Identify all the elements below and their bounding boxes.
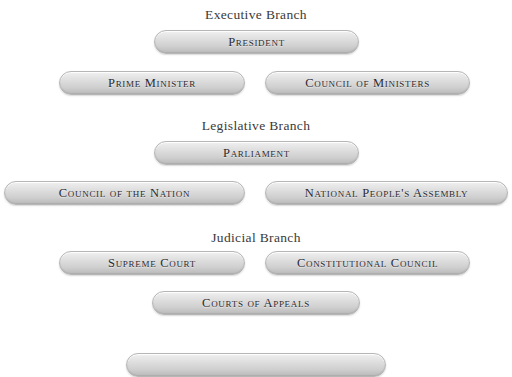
node-label: Council of the Nation xyxy=(59,187,190,200)
node-label: National People's Assembly xyxy=(305,187,469,200)
node-label: President xyxy=(228,36,285,49)
node-supreme-court[interactable]: Supreme Court xyxy=(59,251,245,275)
node-parliament[interactable]: Parliament xyxy=(154,141,359,165)
node-label: Constitutional Council xyxy=(297,257,438,270)
node-national-peoples-assembly[interactable]: National People's Assembly xyxy=(265,181,508,205)
node-constitutional-council[interactable]: Constitutional Council xyxy=(265,251,470,275)
node-label: Prime Minister xyxy=(108,77,196,90)
branch-heading-executive: Executive Branch xyxy=(0,7,512,23)
node-president[interactable]: President xyxy=(154,30,359,54)
node-council-of-ministers[interactable]: Council of Ministers xyxy=(265,71,470,95)
branch-heading-legislative: Legislative Branch xyxy=(0,118,512,134)
node-courts-of-appeals[interactable]: Courts of Appeals xyxy=(152,291,360,315)
branch-heading-judicial: Judicial Branch xyxy=(0,230,512,246)
node-prime-minister[interactable]: Prime Minister xyxy=(59,71,245,95)
node-label: Parliament xyxy=(223,147,290,160)
node-label: Courts of Appeals xyxy=(202,297,310,310)
node-council-of-the-nation[interactable]: Council of the Nation xyxy=(4,181,245,205)
node-partial-cutoff[interactable] xyxy=(126,353,386,377)
node-label: Council of Ministers xyxy=(305,77,430,90)
node-label: Supreme Court xyxy=(108,257,196,270)
